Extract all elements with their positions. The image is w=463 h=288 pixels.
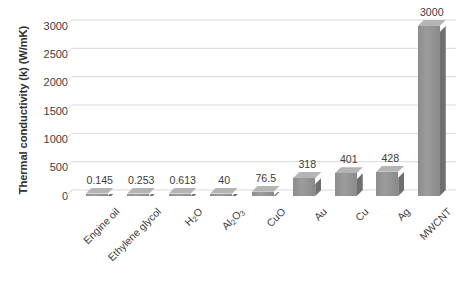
x-axis-category-labels: Engine oilEthylene glycolH2OAl2O3CuOAuCu… xyxy=(0,0,463,288)
x-axis-label-engine-oil: Engine oil xyxy=(33,206,121,288)
thermal-conductivity-bar-chart: Thermal conductivity (k) (W/mK) 30002500… xyxy=(0,0,463,288)
